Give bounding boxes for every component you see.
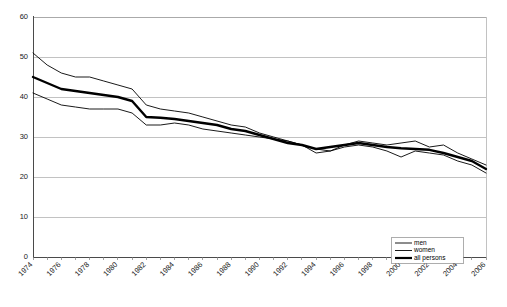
legend-label-women: women [413,246,435,253]
x-tick-label: 2006 [469,260,487,278]
x-tick-label: 1980 [101,260,119,278]
x-tick-label: 1996 [328,260,346,278]
x-tick-label: 1978 [73,260,91,278]
y-tick-label: 10 [20,212,28,221]
x-tick-label: 1998 [356,260,374,278]
y-tick-label: 50 [20,52,28,61]
y-tick-label: 20 [20,172,28,181]
x-tick-label: 1990 [243,260,261,278]
x-tick-label: 1982 [130,260,148,278]
line-chart-svg: 0102030405060 19741976197819801982198419… [0,0,507,307]
x-tick-label: 1988 [214,260,232,278]
x-tick-label: 1992 [271,260,289,278]
chart-legend: menwomenall persons [391,237,463,263]
x-tick-label: 1994 [299,260,317,278]
y-tick-label: 40 [20,92,28,101]
legend-label-all-persons: all persons [414,254,446,262]
y-tick-label: 30 [20,132,28,141]
y-tick-label: 60 [20,12,28,21]
chart-container: 0102030405060 19741976197819801982198419… [0,0,507,307]
plot-area: 0102030405060 19741976197819801982198419… [0,0,507,307]
x-tick-label: 1974 [16,260,34,278]
y-axis-tick-labels: 0102030405060 [20,12,28,261]
legend-label-men: men [414,239,427,246]
series-line-all-persons [33,77,486,169]
data-series [33,53,486,173]
x-tick-label: 1984 [158,260,176,278]
x-tick-label: 1986 [186,260,204,278]
x-tick-label: 1976 [45,260,63,278]
